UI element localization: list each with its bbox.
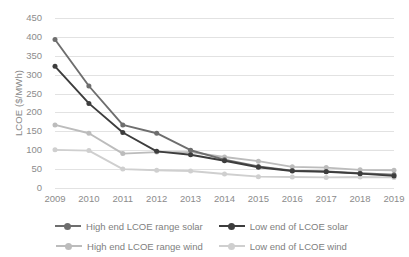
legend-item-low-end-of-lcoe-solar[interactable]: Low end of LCOE solar: [219, 221, 348, 232]
data-point: [222, 158, 227, 163]
series-layer: [55, 18, 394, 188]
legend-row-2: High end LCOE range wind Low end of LCOE…: [0, 236, 403, 256]
gridline: [55, 188, 394, 189]
data-point: [324, 169, 329, 174]
data-point: [53, 64, 58, 69]
y-axis-tick-label: 300: [2, 70, 42, 80]
legend-item-low-end-of-lcoe-wind[interactable]: Low end of LCOE wind: [219, 241, 347, 252]
data-point: [392, 173, 397, 178]
data-point: [392, 168, 397, 173]
data-point: [290, 175, 295, 180]
legend-line-marker-icon: [219, 221, 245, 231]
y-axis-tick-label: 0: [2, 183, 42, 193]
data-point: [256, 159, 261, 164]
series-high-end-lcoe-range-wind: [53, 122, 397, 172]
series-low-end-of-lcoe-solar: [53, 64, 397, 179]
y-axis-tick-label: 100: [2, 145, 42, 155]
legend-row-1: High end LCOE range solar Low end of LCO…: [0, 216, 403, 236]
chart-legend: High end LCOE range solar Low end of LCO…: [0, 216, 403, 256]
data-point: [154, 131, 159, 136]
data-point: [188, 148, 193, 153]
data-point: [154, 168, 159, 173]
data-point: [222, 172, 227, 177]
legend-item-label: Low end of LCOE solar: [250, 221, 348, 232]
legend-line-marker-icon: [219, 241, 245, 251]
data-point: [53, 37, 58, 42]
data-point: [53, 122, 58, 127]
data-point: [120, 122, 125, 127]
data-point: [86, 84, 91, 89]
data-point: [120, 130, 125, 135]
series-line: [55, 125, 394, 170]
data-point: [358, 171, 363, 176]
legend-item-label: High end LCOE range wind: [87, 241, 203, 252]
data-point: [154, 149, 159, 154]
data-point: [86, 101, 91, 106]
data-point: [188, 152, 193, 157]
legend-item-high-end-lcoe-range-wind[interactable]: High end LCOE range wind: [56, 241, 203, 252]
data-point: [256, 174, 261, 179]
legend-item-label: Low end of LCOE wind: [250, 241, 347, 252]
y-axis-tick-label: 450: [2, 13, 42, 23]
data-point: [324, 175, 329, 180]
legend-line-marker-icon: [56, 241, 82, 251]
data-point: [86, 148, 91, 153]
series-line: [55, 40, 394, 175]
data-point: [290, 169, 295, 174]
legend-item-high-end-lcoe-range-solar[interactable]: High end LCOE range solar: [55, 221, 203, 232]
y-axis-tick-label: 200: [2, 107, 42, 117]
x-axis-tick-label: 2019: [374, 193, 409, 204]
legend-item-label: High end LCOE range solar: [86, 221, 203, 232]
y-axis-tick-label: 400: [2, 32, 42, 42]
data-point: [120, 151, 125, 156]
y-axis-tick-label: 250: [2, 89, 42, 99]
data-point: [188, 169, 193, 174]
legend-line-marker-icon: [55, 221, 81, 231]
data-point: [256, 165, 261, 170]
plot-area: 050100150200250300350400450 200920102011…: [55, 18, 394, 188]
series-low-end-of-lcoe-wind: [53, 147, 397, 180]
y-axis-tick-label: 150: [2, 126, 42, 136]
y-axis-tick-label: 350: [2, 51, 42, 61]
data-point: [86, 131, 91, 136]
y-axis-tick-label: 50: [2, 164, 42, 174]
data-point: [53, 147, 58, 152]
data-point: [120, 167, 125, 172]
